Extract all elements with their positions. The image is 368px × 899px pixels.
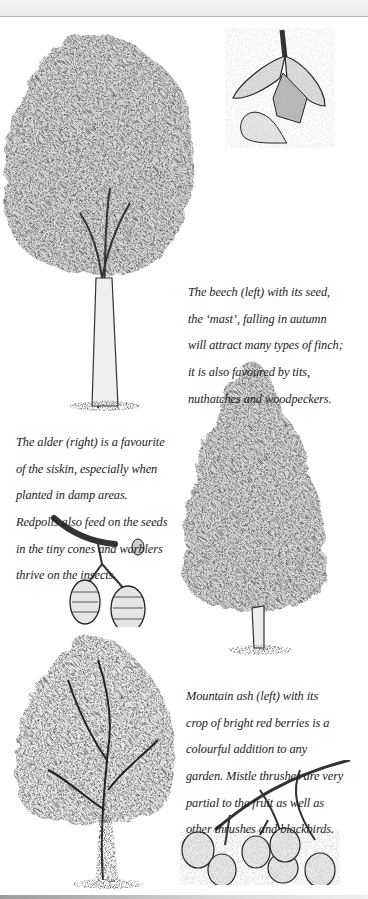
caption-line: other thrushes and blackbirds. (186, 823, 343, 836)
beech-mast-illustration (225, 28, 335, 148)
caption-line: partial to the fruit as well as (186, 797, 343, 810)
caption-line: planted in damp areas. (16, 489, 167, 502)
caption-alder: The alder (right) is a favourite of the … (16, 423, 167, 596)
caption-line: The beech (left) with its seed, (188, 286, 343, 299)
caption-beech: The beech (left) with its seed, the ‘mas… (188, 273, 343, 419)
page-top-edge (0, 0, 368, 17)
caption-line: the ‘mast’, falling in autumn (188, 313, 343, 326)
caption-mountain-ash: Mountain ash (left) with its crop of bri… (186, 677, 343, 850)
beech-tree-illustration (0, 28, 205, 413)
caption-line: colourful addition to any (186, 743, 343, 756)
caption-line: thrive on the insects. (16, 569, 167, 582)
caption-line: will attract many types of finch; (188, 339, 343, 352)
caption-line: Mountain ash (left) with its (186, 690, 343, 703)
caption-line: in the tiny cones and warblers (16, 543, 167, 556)
caption-line: crop of bright red berries is a (186, 717, 343, 730)
caption-line: it is also favoured by tits, (188, 366, 343, 379)
page-bottom-edge (0, 895, 368, 899)
caption-line: garden. Mistle thrushes are very (186, 770, 343, 783)
caption-line: of the siskin, especially when (16, 463, 167, 476)
mountain-ash-tree-illustration (8, 630, 183, 892)
caption-line: nuthatches and woodpeckers. (188, 393, 343, 406)
caption-line: The alder (right) is a favourite (16, 436, 167, 449)
caption-line: Redpolls also feed on the seeds (16, 516, 167, 529)
